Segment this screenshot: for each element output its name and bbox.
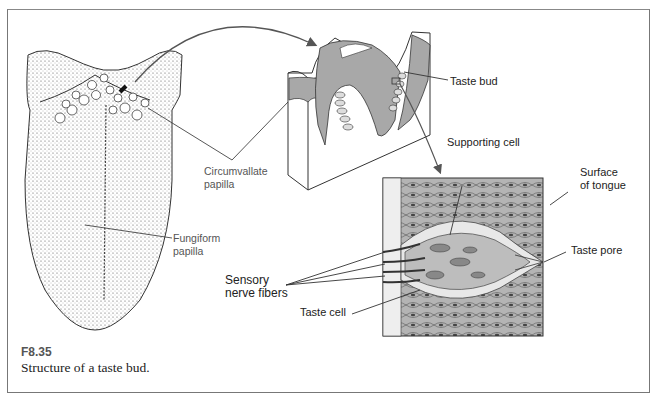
label-taste-cell: Taste cell bbox=[300, 306, 346, 319]
tongue-drawing bbox=[25, 51, 182, 330]
label-taste-pore: Taste pore bbox=[571, 244, 622, 257]
magnified-taste-bud bbox=[383, 178, 543, 336]
label-fungiform-papilla: Fungiform papilla bbox=[173, 232, 220, 258]
taste-bud-illustration bbox=[0, 0, 660, 405]
label-sensory-nerve-fibers: Sensory nerve fibers bbox=[225, 274, 288, 300]
label-surface-of-tongue: Surface of tongue bbox=[580, 166, 626, 192]
circumvallate-papilla-block bbox=[288, 32, 430, 190]
label-supporting-cell: Supporting cell bbox=[447, 136, 520, 149]
label-circumvallate-papilla: Circumvallate papilla bbox=[204, 165, 268, 191]
figure-number: F8.35 bbox=[21, 345, 52, 359]
figure-caption: Structure of a taste bud. bbox=[21, 360, 150, 376]
label-taste-bud: Taste bud bbox=[450, 75, 498, 88]
